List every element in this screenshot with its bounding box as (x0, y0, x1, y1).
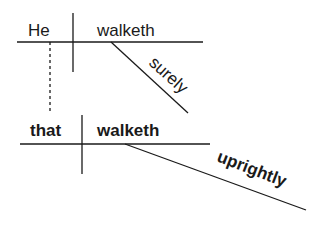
sentence-diagram: He walketh surely that walketh uprightly (0, 0, 318, 226)
word-uprightly: uprightly (215, 147, 290, 191)
word-that: that (30, 121, 62, 140)
word-walketh-2: walketh (96, 121, 159, 140)
word-he: He (28, 21, 50, 40)
word-surely: surely (145, 53, 192, 98)
word-walketh-1: walketh (96, 21, 155, 40)
